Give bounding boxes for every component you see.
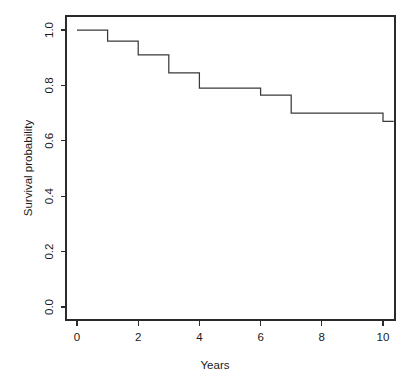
survival-step-curve [77, 30, 394, 121]
y-tick-label-0: 0.0 [43, 299, 55, 315]
y-tick-label-4: 0.8 [43, 77, 55, 93]
x-axis-tick-labels: 0 2 4 6 8 10 [74, 331, 390, 343]
y-axis-title: Survival probability [22, 119, 34, 216]
x-tick-label-4: 8 [319, 331, 325, 343]
x-tick-label-3: 6 [257, 331, 263, 343]
x-tick-label-5: 10 [377, 331, 390, 343]
y-tick-label-3: 0.6 [43, 133, 55, 149]
y-tick-label-5: 1.0 [43, 22, 55, 38]
chart-container: 0.0 0.2 0.4 0.6 0.8 1.0 Survival probabi… [0, 0, 413, 388]
x-tick-label-2: 4 [196, 331, 203, 343]
y-axis-tick-labels: 0.0 0.2 0.4 0.6 0.8 1.0 [43, 22, 55, 315]
survival-curve-plot: 0.0 0.2 0.4 0.6 0.8 1.0 Survival probabi… [0, 0, 413, 388]
x-tick-label-1: 2 [135, 331, 141, 343]
y-tick-label-2: 0.4 [43, 188, 55, 205]
y-axis-ticks [61, 30, 66, 307]
x-axis-ticks [77, 320, 383, 326]
x-tick-label-0: 0 [74, 331, 80, 343]
y-tick-label-1: 0.2 [43, 244, 55, 260]
x-axis-title: Years [201, 359, 230, 371]
plot-frame-box [66, 16, 395, 320]
